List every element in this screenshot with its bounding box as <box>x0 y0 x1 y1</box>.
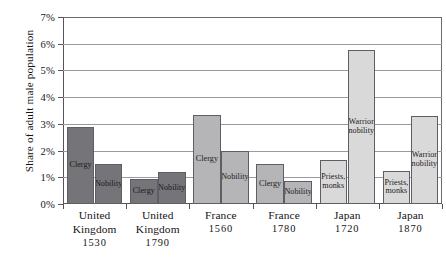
bar-label: Nobility <box>284 188 312 197</box>
x-axis-group-label: France1560 <box>189 208 252 236</box>
y-axis-label: 4% <box>40 92 55 103</box>
y-axis-label: 1% <box>40 172 55 183</box>
bar: Priests, monks <box>320 160 348 204</box>
x-axis-year: 1870 <box>379 223 442 236</box>
x-axis-group-label: France1780 <box>253 208 316 236</box>
bar-label: Warrior nobility <box>348 118 376 135</box>
bar-label: Clergy <box>132 187 156 196</box>
x-axis-year: 1780 <box>253 223 316 236</box>
x-axis-year: 1530 <box>63 237 126 250</box>
y-axis-label: 5% <box>40 65 55 76</box>
y-axis-title: Share of adult male population <box>23 6 35 196</box>
x-axis-country: France <box>205 209 237 221</box>
bar-label: Priests, monks <box>383 179 409 196</box>
bar-label: Nobility <box>95 180 123 189</box>
y-axis-tick <box>58 97 63 98</box>
bar: Warrior nobility <box>348 50 376 204</box>
x-axis-group-label: UnitedKingdom1530 <box>63 208 126 250</box>
bar-label: Clergy <box>258 180 282 189</box>
bar: Nobility <box>95 164 123 204</box>
bar-label: Clergy <box>68 161 92 170</box>
bar: Clergy <box>130 179 158 204</box>
bar-label: Priests, monks <box>320 173 346 190</box>
plot-area: 0%1%2%3%4%5%6%7%ClergyNobilityClergyNobi… <box>63 17 442 204</box>
y-axis-label: 0% <box>40 199 55 210</box>
bar: Clergy <box>193 115 221 204</box>
gridline <box>63 97 442 98</box>
gridline <box>63 44 442 45</box>
x-axis-year: 1560 <box>189 223 252 236</box>
bar: Clergy <box>67 127 95 204</box>
y-axis-tick <box>58 124 63 125</box>
y-axis-label: 3% <box>40 118 55 129</box>
x-axis-country: United <box>79 209 111 221</box>
bar-label: Nobility <box>221 173 249 182</box>
y-axis-tick <box>58 44 63 45</box>
bar: Nobility <box>158 172 186 204</box>
bar: Nobility <box>221 151 249 204</box>
y-axis-label: 6% <box>40 38 55 49</box>
gridline <box>63 124 442 125</box>
x-axis-group-label: Japan1870 <box>379 208 442 236</box>
x-axis-country-line2: Kingdom <box>136 223 180 235</box>
y-axis-tick <box>58 17 63 18</box>
bar: Warrior nobility <box>411 116 439 204</box>
x-axis-year: 1790 <box>126 237 189 250</box>
y-axis-tick <box>58 70 63 71</box>
x-axis-country: Japan <box>334 209 360 221</box>
y-axis-label: 7% <box>40 12 55 23</box>
y-axis-label: 2% <box>40 145 55 156</box>
y-axis-tick <box>58 151 63 152</box>
x-axis-tick <box>442 204 443 209</box>
bar: Clergy <box>256 164 284 204</box>
gridline <box>63 151 442 152</box>
gridline <box>63 70 442 71</box>
bar-label: Warrior nobility <box>411 151 439 168</box>
x-axis-group-label: UnitedKingdom1790 <box>126 208 189 250</box>
x-axis-country-line2: Kingdom <box>73 223 117 235</box>
x-axis-group-label: Japan1720 <box>316 208 379 236</box>
x-axis-country: France <box>268 209 300 221</box>
bar: Nobility <box>284 181 312 204</box>
y-axis-tick <box>58 177 63 178</box>
bar: Priests, monks <box>383 171 411 204</box>
bar-label: Clergy <box>195 155 219 164</box>
x-axis-year: 1720 <box>316 223 379 236</box>
bar-chart: Share of adult male population 0%1%2%3%4… <box>0 0 446 259</box>
x-axis-country: Japan <box>397 209 423 221</box>
bar-label: Nobility <box>158 184 186 193</box>
x-axis-country: United <box>142 209 174 221</box>
